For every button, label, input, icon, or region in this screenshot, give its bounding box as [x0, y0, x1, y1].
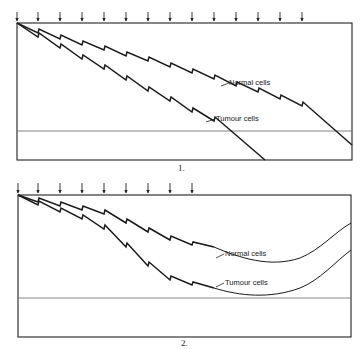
dose-arrow-icon — [212, 12, 215, 22]
normal-cells-curve-1 — [17, 23, 352, 145]
dose-arrows-1 — [15, 12, 303, 22]
dose-arrow-icon — [168, 12, 171, 22]
dose-arrow-icon — [146, 183, 149, 194]
dose-arrow-icon — [168, 183, 171, 194]
dose-arrow-icon — [80, 12, 83, 22]
dose-arrow-icon — [36, 12, 39, 22]
diagram-caption-1: 1. — [178, 163, 185, 173]
dose-arrow-icon — [58, 183, 61, 194]
dose-arrow-icon — [102, 12, 105, 22]
leader-line — [216, 254, 224, 258]
dose-arrow-icon — [80, 183, 83, 194]
leader-line — [221, 83, 229, 86]
normal-cells-label-2: Normal cells — [225, 249, 267, 258]
dose-arrow-icon — [190, 12, 193, 22]
tumour-cells-label-1: Tumour cells — [216, 114, 259, 123]
dose-arrow-icon — [36, 183, 39, 194]
plot-frame-1 — [17, 23, 352, 160]
dose-arrow-icon — [16, 183, 19, 194]
diagram-1: Normal cells Tumour cells 1. — [15, 12, 352, 173]
dose-arrow-icon — [300, 12, 303, 22]
dose-arrow-icon — [15, 12, 18, 22]
dose-arrow-icon — [124, 183, 127, 194]
figure-canvas: Normal cells Tumour cells 1. Normal cell… — [0, 0, 361, 349]
dose-arrow-icon — [256, 12, 259, 22]
dose-arrows-2 — [16, 183, 193, 194]
tumour-cells-curve-1 — [17, 23, 265, 160]
dose-arrow-icon — [58, 12, 61, 22]
diagram-caption-2: 2. — [181, 338, 188, 348]
dose-arrow-icon — [234, 12, 237, 22]
dose-arrow-icon — [124, 12, 127, 22]
dose-arrow-icon — [146, 12, 149, 22]
leader-line — [216, 283, 224, 287]
dose-arrow-icon — [102, 183, 105, 194]
tumour-cells-label-2: Tumour cells — [225, 278, 268, 287]
normal-cells-curve-2 — [18, 195, 214, 247]
dose-arrow-icon — [190, 183, 193, 194]
normal-cells-label-1: Normal cells — [229, 78, 271, 87]
dose-arrow-icon — [278, 12, 281, 22]
diagram-2: Normal cells Tumour cells 2. — [16, 183, 351, 348]
plot-frame-2 — [18, 195, 351, 337]
